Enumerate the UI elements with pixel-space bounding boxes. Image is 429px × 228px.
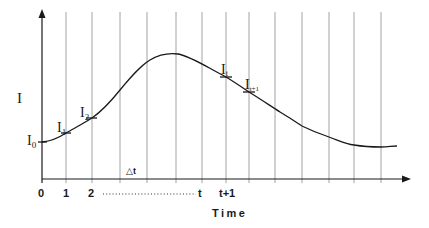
x-axis-label: Time xyxy=(212,207,247,219)
tick-label-2: 2 xyxy=(88,187,94,199)
label-It1: It+1 xyxy=(245,77,260,93)
y-axis-label: I xyxy=(17,90,22,106)
tick-label-0: 0 xyxy=(38,187,44,199)
tick-label-t1: t+1 xyxy=(219,187,235,199)
tick-label-1: 1 xyxy=(63,187,69,199)
label-It: It xyxy=(221,62,229,78)
label-I2: I2 xyxy=(80,105,89,122)
label-I1: I1 xyxy=(57,120,66,137)
intensity-time-diagram: I0 I1 I2 It It+1 I △t 0 1 2 t t+1 Time xyxy=(0,0,429,228)
tick-label-t: t xyxy=(198,187,202,199)
y-axis-arrow-icon xyxy=(39,9,46,18)
sample-marks xyxy=(38,77,255,142)
delta-t-label: △t xyxy=(126,166,136,176)
x-axis-arrow-icon xyxy=(402,176,411,183)
label-I0: I0 xyxy=(27,133,37,150)
intensity-curve xyxy=(42,54,397,147)
axes xyxy=(39,9,412,183)
